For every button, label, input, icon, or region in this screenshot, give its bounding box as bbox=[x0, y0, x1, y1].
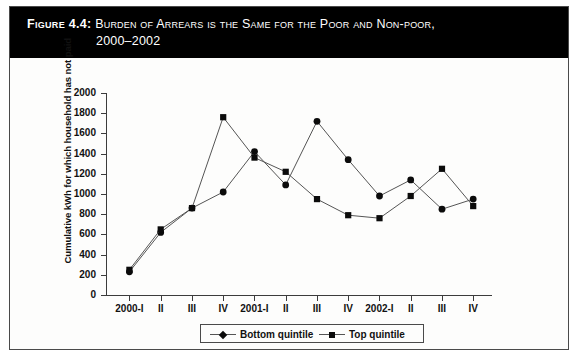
data-point-diamond-marker-icon bbox=[282, 182, 289, 189]
data-point-square-marker-icon bbox=[251, 155, 257, 161]
figure-title-line-1: Figure 4.4: Burden of Arrears is the Sam… bbox=[27, 16, 554, 33]
series-line-top-quintile bbox=[129, 117, 473, 270]
figure-number-label: Figure 4.4: bbox=[27, 17, 91, 31]
data-point-diamond-marker-icon bbox=[376, 193, 383, 200]
data-point-diamond-marker-icon bbox=[470, 196, 477, 203]
data-point-diamond-marker-icon bbox=[220, 189, 227, 196]
figure-container: Figure 4.4: Burden of Arrears is the Sam… bbox=[9, 6, 569, 350]
data-point-square-marker-icon bbox=[126, 267, 132, 273]
data-point-square-marker-icon bbox=[408, 193, 414, 199]
series-line-bottom-quintile bbox=[129, 121, 473, 271]
figure-title-line-2: 2000–2002 bbox=[27, 33, 554, 50]
square-marker-icon bbox=[319, 330, 345, 340]
data-point-diamond-marker-icon bbox=[345, 156, 352, 163]
data-point-diamond-marker-icon bbox=[439, 206, 446, 213]
data-point-square-marker-icon bbox=[158, 226, 164, 232]
data-point-diamond-marker-icon bbox=[407, 177, 414, 184]
chart-plot-area: Cumulative kWh for which household has n… bbox=[10, 58, 568, 349]
data-point-square-marker-icon bbox=[345, 212, 351, 218]
data-point-square-marker-icon bbox=[283, 169, 289, 175]
figure-title-text: Burden of Arrears is the Same for the Po… bbox=[95, 17, 435, 31]
legend-label-bottom-quintile: Bottom quintile bbox=[240, 329, 313, 340]
data-point-diamond-marker-icon bbox=[314, 118, 321, 125]
data-point-square-marker-icon bbox=[189, 205, 195, 211]
chart-series-layer bbox=[10, 58, 568, 349]
legend-entry-top-quintile: Top quintile bbox=[319, 328, 405, 341]
diamond-marker-icon bbox=[210, 330, 236, 340]
legend-label-top-quintile: Top quintile bbox=[349, 329, 405, 340]
data-point-square-marker-icon bbox=[220, 114, 226, 120]
data-point-square-marker-icon bbox=[470, 203, 476, 209]
data-point-square-marker-icon bbox=[439, 166, 445, 172]
data-point-square-marker-icon bbox=[314, 196, 320, 202]
data-point-square-marker-icon bbox=[376, 215, 382, 221]
chart-legend: Bottom quintile Top quintile bbox=[200, 324, 424, 343]
legend-entry-bottom-quintile: Bottom quintile bbox=[210, 328, 313, 341]
figure-title-band: Figure 4.4: Burden of Arrears is the Sam… bbox=[10, 7, 568, 58]
